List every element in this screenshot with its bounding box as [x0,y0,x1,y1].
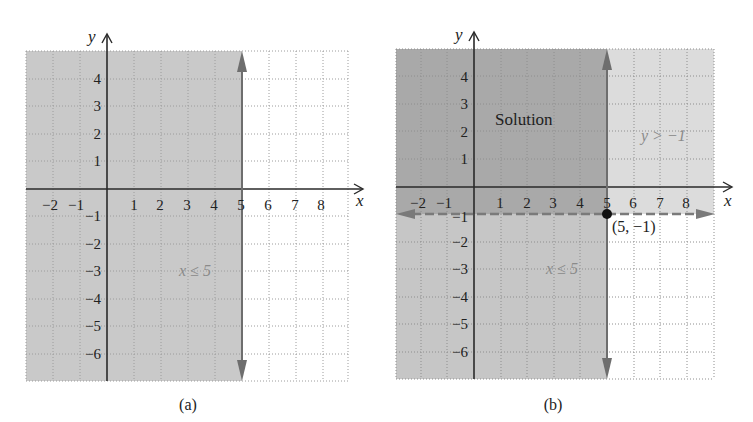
svg-text:−2: −2 [410,195,426,211]
svg-text:−4: −4 [452,289,468,305]
point-label: (5, −1) [612,218,656,236]
svg-text:6: 6 [264,197,272,213]
y-axis-label: y [86,27,96,46]
svg-text:4: 4 [576,195,584,211]
svg-text:2: 2 [523,195,531,211]
svg-text:3: 3 [461,96,469,112]
svg-text:5: 5 [603,195,611,211]
solution-label: Solution [495,110,553,129]
svg-text:−3: −3 [85,263,101,279]
svg-text:−5: −5 [85,318,101,334]
svg-text:−5: −5 [452,316,468,332]
y-axis-label: y [453,25,463,44]
svg-text:−1: −1 [68,197,84,213]
svg-text:2: 2 [156,197,164,213]
panel-b: y x −2 −1 1 2 3 4 5 6 7 8 4 3 2 1 −1 −2 … [396,25,732,414]
svg-text:6: 6 [629,195,637,211]
panel-caption-b: (b) [544,396,563,414]
svg-text:−2: −2 [452,234,468,250]
region-label-x-le-5: x ≤ 5 [178,262,211,279]
svg-text:8: 8 [317,197,325,213]
region-label-x-le-5: x ≤ 5 [545,260,578,277]
svg-text:7: 7 [291,197,299,213]
svg-text:1: 1 [130,197,138,213]
svg-text:4: 4 [461,69,469,85]
svg-text:8: 8 [682,195,690,211]
svg-text:−1: −1 [452,209,468,225]
svg-text:1: 1 [94,153,102,169]
svg-text:−1: −1 [85,208,101,224]
svg-text:7: 7 [656,195,664,211]
svg-text:−2: −2 [85,236,101,252]
svg-text:−4: −4 [85,291,101,307]
svg-text:1: 1 [461,151,469,167]
svg-text:−6: −6 [85,346,101,362]
region-label-y-gt-neg1: y > −1 [639,127,686,145]
svg-text:3: 3 [549,195,557,211]
svg-text:−1: −1 [436,195,452,211]
svg-text:4: 4 [210,197,218,213]
svg-text:3: 3 [94,98,102,114]
svg-text:−3: −3 [452,261,468,277]
svg-text:2: 2 [94,126,102,142]
svg-text:4: 4 [94,71,102,87]
svg-text:−6: −6 [452,344,468,360]
svg-text:−2: −2 [42,197,58,213]
panel-caption-a: (a) [179,396,197,414]
svg-text:1: 1 [496,195,504,211]
panel-a: y x −2 −1 1 2 3 4 5 6 7 8 4 3 2 1 −1 −2 … [26,27,364,414]
x-axis-label: x [723,191,732,210]
x-axis-label: x [355,191,364,210]
svg-text:5: 5 [237,197,245,213]
svg-text:3: 3 [183,197,191,213]
svg-text:2: 2 [461,124,469,140]
